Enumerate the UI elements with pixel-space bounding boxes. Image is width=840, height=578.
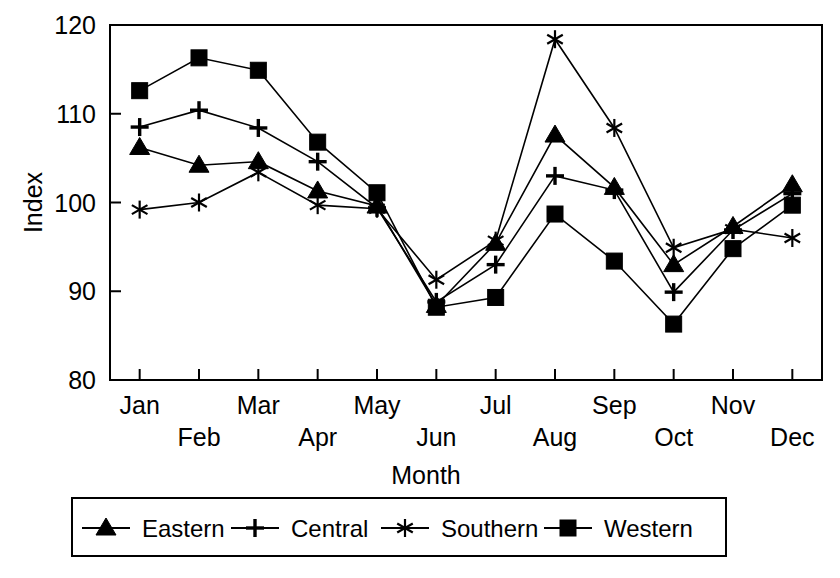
asterisk-marker xyxy=(666,239,682,257)
x-tick-label: Dec xyxy=(770,423,814,451)
square-marker xyxy=(310,134,326,150)
y-tick-label: 80 xyxy=(68,366,96,394)
square-marker xyxy=(250,62,266,78)
square-marker xyxy=(132,83,148,99)
x-tick-label: Aug xyxy=(533,423,577,451)
x-tick-label: Nov xyxy=(711,391,756,419)
x-tick-label: Oct xyxy=(654,423,693,451)
plus-marker xyxy=(190,101,208,119)
legend-item-label: Eastern xyxy=(142,515,225,542)
series-line xyxy=(140,135,793,305)
square-marker xyxy=(606,253,622,269)
square-marker xyxy=(191,50,207,66)
axis-titles: IndexMonth xyxy=(19,171,461,489)
square-marker xyxy=(560,520,576,536)
asterisk-marker xyxy=(785,229,801,247)
x-axis-ticks: JanFebMarAprMayJunJulAugSepOctNovDec xyxy=(120,369,815,451)
series-southern xyxy=(132,30,800,289)
legend-item-label: Southern xyxy=(441,515,538,542)
plus-marker xyxy=(546,167,564,185)
y-tick-label: 90 xyxy=(68,277,96,305)
asterisk-marker xyxy=(607,119,623,137)
series-line xyxy=(140,110,793,302)
x-tick-label: Feb xyxy=(177,423,220,451)
square-marker xyxy=(547,206,563,222)
legend: EasternCentralSouthernWestern xyxy=(72,498,726,556)
y-tick-label: 100 xyxy=(54,189,96,217)
line-chart-figure: 8090100110120 JanFebMarAprMayJunJulAugSe… xyxy=(0,0,840,578)
series-central xyxy=(131,101,802,311)
x-tick-label: Jun xyxy=(416,423,456,451)
square-marker xyxy=(784,197,800,213)
square-marker xyxy=(666,316,682,332)
legend-item-label: Central xyxy=(291,515,368,542)
legend-item-label: Western xyxy=(604,515,693,542)
x-tick-label: Jan xyxy=(120,391,160,419)
series-layer xyxy=(130,30,803,332)
plus-marker xyxy=(309,153,327,171)
asterisk-marker xyxy=(547,30,563,48)
x-tick-label: Apr xyxy=(298,423,337,451)
triangle-marker xyxy=(308,181,328,198)
square-marker xyxy=(428,299,444,315)
y-axis-title: Index xyxy=(19,171,47,233)
plot-frame xyxy=(110,25,822,380)
series-line xyxy=(140,39,793,280)
series-western xyxy=(132,50,801,332)
y-tick-label: 120 xyxy=(54,11,96,39)
plus-marker xyxy=(131,118,149,136)
square-marker xyxy=(725,241,741,257)
x-tick-label: May xyxy=(353,391,401,419)
triangle-marker xyxy=(130,137,150,154)
chart-svg: 8090100110120 JanFebMarAprMayJunJulAugSe… xyxy=(0,0,840,578)
y-tick-label: 110 xyxy=(56,100,96,128)
plot-border xyxy=(110,25,822,380)
x-tick-label: Jul xyxy=(480,391,512,419)
triangle-marker xyxy=(545,125,565,142)
x-tick-label: Mar xyxy=(237,391,280,419)
triangle-marker xyxy=(664,255,684,272)
plus-marker xyxy=(249,119,267,137)
square-marker xyxy=(488,289,504,305)
series-eastern xyxy=(130,125,803,312)
plus-marker xyxy=(487,256,505,274)
x-tick-label: Sep xyxy=(592,391,636,419)
square-marker xyxy=(369,185,385,201)
x-axis-title: Month xyxy=(391,461,460,489)
